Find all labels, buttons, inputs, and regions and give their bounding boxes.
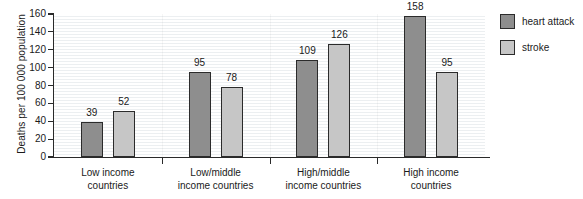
plot-area: 3952957810912615895 (54, 14, 485, 157)
y-axis-tick-mark (48, 139, 53, 140)
y-axis-tick-mark (48, 13, 53, 14)
group-separator (377, 14, 378, 157)
bar-stroke (328, 44, 350, 157)
y-axis-tick-mark (48, 156, 53, 157)
y-axis-tick-label: 140 (14, 27, 46, 37)
bar-value-label: 158 (398, 2, 432, 12)
bar-heart-attack (81, 122, 103, 157)
y-axis-tick-mark (48, 103, 53, 104)
bar-heart-attack (404, 16, 426, 157)
bar-heart-attack (296, 60, 318, 157)
bar-stroke (113, 111, 135, 157)
category-label-line: countries (367, 179, 495, 192)
bar-value-label: 109 (290, 46, 324, 56)
bar-value-label: 95 (430, 58, 464, 68)
legend-label: heart attack (522, 16, 574, 27)
legend-item[interactable]: stroke (500, 38, 583, 56)
y-axis-tick-label: 0 (14, 152, 46, 162)
legend-label: stroke (522, 42, 549, 53)
x-axis-tick-mark (162, 158, 163, 164)
y-axis-tick-label: 80 (14, 81, 46, 91)
y-axis-tick-mark (48, 49, 53, 50)
bar-heart-attack (189, 72, 211, 157)
bar-value-label: 126 (322, 30, 356, 40)
y-axis-tick-mark (48, 67, 53, 68)
category-label: High incomecountries (367, 166, 495, 192)
legend: heart attackstroke (500, 12, 583, 64)
bar-value-label: 78 (215, 73, 249, 83)
y-axis-line (53, 13, 54, 158)
legend-swatch-heart-attack (500, 14, 515, 29)
bar-value-label: 95 (183, 58, 217, 68)
y-axis-tick-label: 120 (14, 45, 46, 55)
y-axis-tick-label: 60 (14, 98, 46, 108)
group-separator (270, 14, 271, 157)
y-axis-tick-label: 160 (14, 9, 46, 19)
bar-value-label: 39 (75, 108, 109, 118)
y-axis-tick-label: 40 (14, 116, 46, 126)
y-axis-tick-label: 20 (14, 134, 46, 144)
group-separator (162, 14, 163, 157)
bar-chart: Deaths per 100 000 population 3952957810… (0, 0, 583, 199)
y-axis-tick-label: 100 (14, 63, 46, 73)
x-axis-line (53, 157, 490, 158)
legend-item[interactable]: heart attack (500, 12, 583, 30)
category-label-line: High income (367, 166, 495, 179)
bar-stroke (436, 72, 458, 157)
bar-stroke (221, 87, 243, 157)
x-axis-tick-mark (377, 158, 378, 164)
y-axis-tick-mark (48, 121, 53, 122)
x-axis-tick-mark (270, 158, 271, 164)
y-axis-tick-mark (48, 85, 53, 86)
y-axis-tick-mark (48, 31, 53, 32)
bar-value-label: 52 (107, 97, 141, 107)
legend-swatch-stroke (500, 40, 515, 55)
